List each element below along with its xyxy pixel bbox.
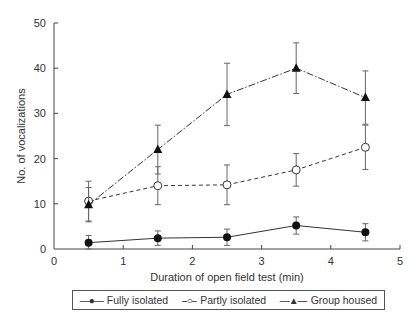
legend-label: Group housed xyxy=(311,294,378,306)
legend-label: Fully isolated xyxy=(107,294,168,306)
filled-circle-marker xyxy=(223,233,231,241)
x-tick-label: 2 xyxy=(189,255,195,267)
filled-triangle-line-icon: —▲— xyxy=(280,295,307,306)
open-circle-marker xyxy=(361,143,369,151)
y-tick-label: 0 xyxy=(40,243,46,255)
triangle-marker xyxy=(292,63,301,71)
x-tick-label: 3 xyxy=(259,255,265,267)
filled-circle-marker xyxy=(361,228,369,236)
open-circle-marker xyxy=(292,166,300,174)
x-tick-label: 5 xyxy=(397,255,403,267)
y-tick-label: 30 xyxy=(34,107,46,119)
axes: 01234501020304050 xyxy=(34,17,403,267)
open-circle-dashed-icon: --○-- xyxy=(182,295,196,306)
series-group xyxy=(84,43,370,249)
legend-item-group-housed: —▲— Group housed xyxy=(280,294,377,306)
line-chart: 01234501020304050 Duration of open field… xyxy=(0,0,420,325)
legend-item-fully-isolated: —●— Fully isolated xyxy=(80,294,168,306)
open-circle-marker xyxy=(154,182,162,190)
y-tick-label: 50 xyxy=(34,17,46,29)
y-tick-label: 20 xyxy=(34,153,46,165)
y-tick-label: 40 xyxy=(34,62,46,74)
x-tick-label: 4 xyxy=(328,255,334,267)
x-axis-title: Duration of open field test (min) xyxy=(150,271,303,283)
x-tick-label: 0 xyxy=(51,255,57,267)
x-tick-label: 1 xyxy=(120,255,126,267)
legend-item-partly-isolated: --○-- Partly isolated xyxy=(182,294,266,306)
y-axis-title: No. of vocalizations xyxy=(15,88,27,184)
filled-circle-marker xyxy=(154,234,162,242)
y-tick-label: 10 xyxy=(34,198,46,210)
filled-circle-line-icon: —●— xyxy=(80,295,103,306)
triangle-marker xyxy=(361,93,370,102)
filled-circle-marker xyxy=(292,221,300,229)
series-partly-isolated xyxy=(85,125,370,221)
filled-circle-marker xyxy=(85,239,93,247)
legend: —●— Fully isolated --○-- Partly isolated… xyxy=(72,290,385,310)
series-fully-isolated xyxy=(85,217,370,249)
legend-label: Partly isolated xyxy=(200,294,266,306)
triangle-marker xyxy=(153,145,162,154)
open-circle-marker xyxy=(223,181,231,189)
